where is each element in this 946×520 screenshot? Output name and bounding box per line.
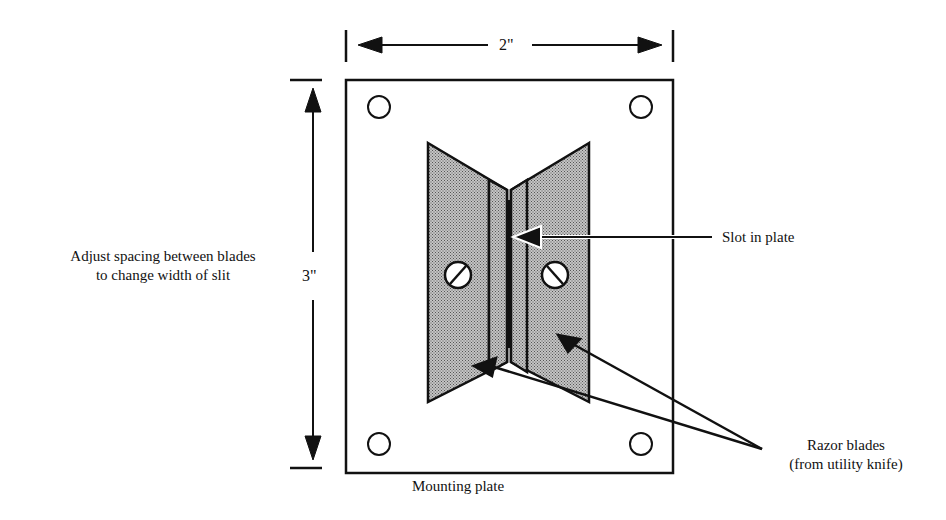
mounting-hole-icon bbox=[630, 433, 652, 455]
adjust-spacing-line1: Adjust spacing between blades bbox=[38, 247, 288, 266]
razor-blades-line2: (from utility knife) bbox=[746, 455, 946, 474]
arrowhead-icon bbox=[638, 37, 662, 53]
adjust-spacing-label: Adjust spacing between blades to change … bbox=[38, 247, 288, 285]
mounting-hole-icon bbox=[630, 96, 652, 118]
screw-icon bbox=[445, 262, 471, 288]
screw-icon bbox=[542, 262, 568, 288]
razor-blades-line1: Razor blades bbox=[746, 436, 946, 455]
height-label: 3" bbox=[302, 266, 317, 285]
slot-label: Slot in plate bbox=[722, 228, 795, 247]
mounting-hole-icon bbox=[368, 433, 390, 455]
mounting-plate-label: Mounting plate bbox=[412, 477, 504, 496]
arrowhead-icon bbox=[358, 37, 382, 53]
adjust-spacing-line2: to change width of slit bbox=[38, 266, 288, 285]
razor-blades-label: Razor blades (from utility knife) bbox=[746, 436, 946, 474]
width-label: 2" bbox=[499, 35, 514, 54]
mounting-hole-icon bbox=[368, 96, 390, 118]
arrowhead-icon bbox=[305, 436, 321, 460]
arrowhead-icon bbox=[305, 88, 321, 112]
